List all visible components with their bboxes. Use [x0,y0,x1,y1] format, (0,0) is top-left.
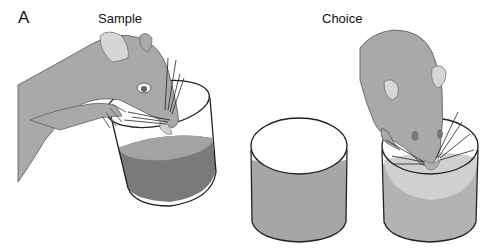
choice-left-cup [251,118,347,242]
diagram-canvas [0,0,494,252]
choice-rat [360,30,474,170]
